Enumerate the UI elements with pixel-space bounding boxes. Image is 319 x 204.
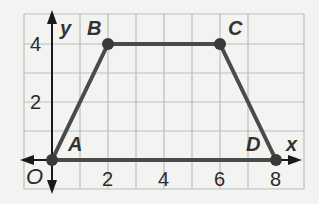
label-a: A [68,134,82,154]
x-tick-2: 2 [102,169,113,189]
x-tick-6: 6 [214,169,225,189]
point-b [102,38,114,50]
y-tick-4: 4 [30,34,41,54]
y-axis-arrow-down-icon [47,180,57,194]
y-axis-arrow-up-icon [47,10,57,24]
label-d: D [246,134,260,154]
y-tick-2: 2 [30,92,41,112]
coordinate-plane: y x O 4 2 2 4 6 8 A B C D [0,0,319,204]
y-axis-label: y [60,18,71,38]
point-c [214,38,226,50]
x-axis-arrow-right-icon [288,155,302,165]
x-tick-8: 8 [270,169,281,189]
origin-label: O [26,166,43,188]
label-c: C [228,18,242,38]
x-tick-4: 4 [158,169,169,189]
x-axis-label: x [286,134,297,154]
point-d [270,154,282,166]
point-a [46,154,58,166]
grid [24,14,304,189]
label-b: B [87,18,101,38]
